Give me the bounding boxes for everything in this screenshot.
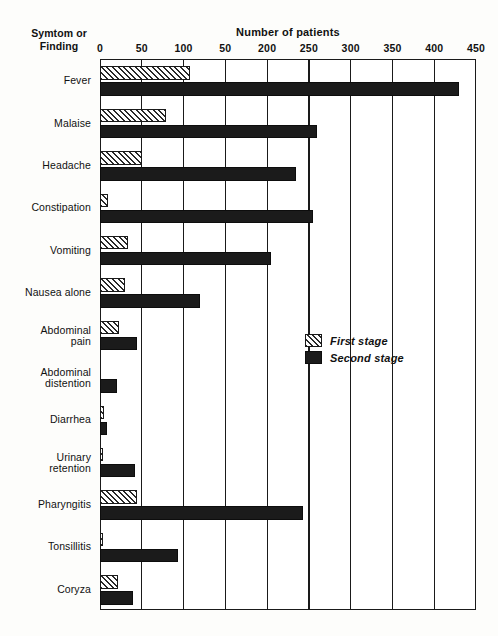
legend-label-first-stage: First stage [330, 335, 388, 347]
category-label-3-line1: Constipation [31, 202, 91, 214]
bar-second-stage-9 [100, 464, 135, 478]
bar-first-stage-8 [100, 406, 104, 420]
bar-second-stage-0 [100, 82, 459, 96]
category-label-10: Pharyngitis [0, 499, 91, 511]
bar-series-container [100, 59, 476, 610]
x-tick-label-7: 350 [383, 42, 401, 54]
bar-first-stage-6 [100, 321, 119, 335]
category-label-7: Abdominaldistention [0, 366, 91, 389]
category-label-4-line1: Vomiting [50, 244, 91, 256]
category-label-0: Fever [0, 75, 91, 87]
category-label-3: Constipation [0, 203, 91, 215]
bar-second-stage-4 [100, 252, 271, 266]
x-tick-label-1: 50 [136, 42, 148, 54]
bar-first-stage-5 [100, 278, 125, 292]
bar-first-stage-10 [100, 490, 137, 504]
legend: First stage Second stage [305, 333, 404, 367]
bar-second-stage-10 [100, 506, 303, 520]
bar-second-stage-12 [100, 591, 133, 605]
category-label-7-line1: Abdominal [40, 365, 91, 377]
x-tick-label-6: 300 [342, 42, 360, 54]
category-label-2: Headache [0, 160, 91, 172]
bar-second-stage-7 [100, 379, 117, 393]
bar-second-stage-2 [100, 167, 296, 181]
legend-item-second-stage: Second stage [305, 350, 404, 365]
bar-first-stage-9 [100, 448, 103, 462]
legend-label-second-stage: Second stage [330, 352, 404, 364]
x-axis-tick-labels: 05010050200250300350400450 [0, 42, 498, 56]
bar-second-stage-8 [100, 422, 107, 436]
bar-first-stage-3 [100, 194, 108, 208]
category-label-8-line1: Diarrhea [50, 414, 91, 426]
chart-title: Number of patients [100, 26, 476, 38]
category-label-11-line1: Tonsillitis [48, 541, 91, 553]
x-tick-label-3: 50 [219, 42, 231, 54]
legend-swatch-first-stage-icon [305, 334, 322, 347]
x-tick-label-5: 250 [300, 42, 318, 54]
x-tick-label-9: 450 [467, 42, 485, 54]
y-axis-category-labels: FeverMalaiseHeadacheConstipationVomiting… [0, 59, 97, 610]
legend-item-first-stage: First stage [305, 333, 404, 348]
category-label-6: Abdominalpain [0, 324, 91, 347]
bar-second-stage-3 [100, 210, 313, 224]
x-tick-label-2: 100 [174, 42, 192, 54]
category-label-6-line1: Abdominal [40, 323, 91, 335]
bar-first-stage-4 [100, 236, 128, 250]
bar-chart-figure: Symtom or Finding Number of patients 050… [0, 0, 498, 636]
category-label-9: Urinaryretention [0, 451, 91, 474]
bar-second-stage-6 [100, 337, 137, 351]
bar-first-stage-11 [100, 533, 103, 547]
category-label-0-line1: Fever [64, 74, 91, 86]
category-label-9-line1: Urinary [56, 450, 91, 462]
category-label-1-line1: Malaise [54, 117, 91, 129]
category-label-6-line2: pain [0, 336, 91, 348]
category-label-12: Coryza [0, 584, 91, 596]
category-label-9-line2: retention [0, 463, 91, 475]
category-label-5: Nausea alone [0, 287, 91, 299]
bar-second-stage-1 [100, 125, 317, 139]
legend-swatch-second-stage-icon [305, 351, 322, 364]
category-label-7-line2: distention [0, 378, 91, 390]
bar-first-stage-1 [100, 109, 166, 123]
x-tick-label-8: 400 [425, 42, 443, 54]
x-tick-label-4: 200 [258, 42, 276, 54]
y-axis-title-line1: Symtom or [31, 27, 87, 39]
category-label-2-line1: Headache [42, 159, 91, 171]
category-label-5-line1: Nausea alone [25, 286, 91, 298]
category-label-11: Tonsillitis [0, 542, 91, 554]
category-label-4: Vomiting [0, 245, 91, 257]
bar-second-stage-11 [100, 549, 178, 563]
category-label-12-line1: Coryza [57, 583, 91, 595]
x-tick-label-0: 0 [97, 42, 103, 54]
category-label-8: Diarrhea [0, 415, 91, 427]
bar-second-stage-5 [100, 294, 200, 308]
bar-first-stage-0 [100, 66, 190, 80]
category-label-1: Malaise [0, 118, 91, 130]
bar-first-stage-12 [100, 575, 118, 589]
bar-first-stage-2 [100, 151, 142, 165]
category-label-10-line1: Pharyngitis [38, 498, 91, 510]
